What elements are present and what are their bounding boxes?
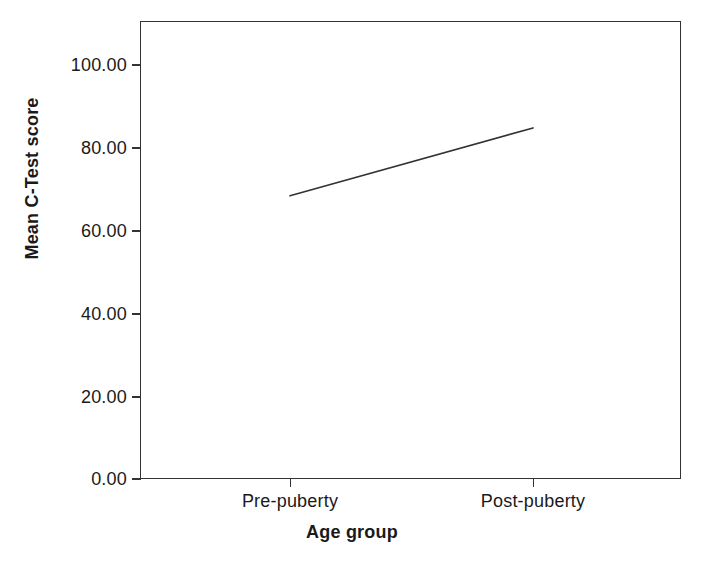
x-axis-title: Age group — [0, 522, 704, 543]
x-tick-mark-pre-puberty — [290, 478, 291, 487]
x-tick-mark-post-puberty — [533, 478, 534, 487]
x-tick-label-post-puberty: Post-puberty — [481, 490, 585, 512]
x-axis: Pre-puberty Post-puberty Age group — [0, 0, 704, 567]
x-tick-label-pre-puberty: Pre-puberty — [242, 490, 338, 512]
profile-plot-figure: 100.00 80.00 60.00 40.00 20.00 0.00 Mean… — [0, 0, 704, 567]
